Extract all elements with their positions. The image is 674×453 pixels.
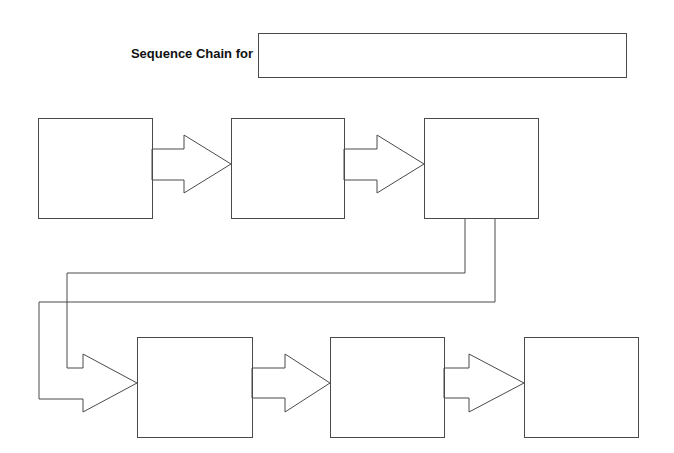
sequence-box-5[interactable] [330, 337, 445, 438]
sequence-box-3[interactable] [424, 118, 539, 219]
arrow-2-to-3 [344, 135, 424, 193]
sequence-box-4-text[interactable] [138, 338, 252, 437]
sequence-box-4[interactable] [137, 337, 253, 438]
sequence-box-5-text[interactable] [331, 338, 444, 437]
sequence-box-1-text[interactable] [39, 119, 152, 218]
arrow-1-to-2 [152, 135, 231, 193]
arrow-3-to-4-head [83, 354, 137, 412]
arrow-5-to-6 [444, 354, 524, 412]
sequence-box-6[interactable] [524, 337, 639, 438]
sequence-box-2[interactable] [231, 118, 345, 219]
sequence-box-1[interactable] [38, 118, 153, 219]
sequence-box-2-text[interactable] [232, 119, 344, 218]
sequence-box-3-text[interactable] [425, 119, 538, 218]
sequence-box-6-text[interactable] [525, 338, 638, 437]
arrow-4-to-5 [252, 354, 330, 412]
